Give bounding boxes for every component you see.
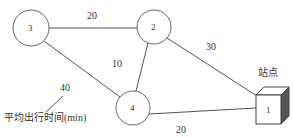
edge-2-1-weight: 30 — [206, 42, 216, 52]
node-3-label: 3 — [28, 23, 33, 33]
edge-3-4-weight: 40 — [60, 83, 70, 93]
edge-4-1-weight: 20 — [176, 125, 186, 135]
edge-4-1 — [149, 108, 256, 114]
node-2-label: 2 — [151, 22, 156, 32]
legend-leader-line — [46, 96, 63, 112]
station-label: 站点 — [258, 68, 278, 78]
edge-3-2-weight: 20 — [87, 11, 97, 21]
edge-2-4-weight: 10 — [112, 59, 122, 69]
legend-label: 平均出行时间(min) — [4, 113, 86, 123]
node-1-label: 1 — [266, 105, 271, 115]
node-4-label: 4 — [130, 103, 135, 113]
edge-3-4 — [44, 41, 120, 97]
edge-2-4 — [136, 43, 148, 91]
station-cube-icon — [256, 87, 289, 124]
